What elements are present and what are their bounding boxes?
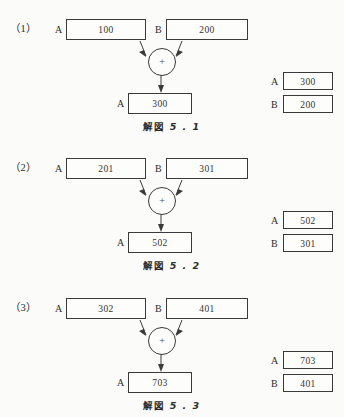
problem-block: （2） A 201 B 301 + A 502 A 502 B 301 解図 5… — [0, 139, 344, 278]
caption-figure-number: 5 . 2 — [170, 260, 201, 271]
caption-prefix: 解図 — [143, 260, 165, 271]
arrow-head-a-to-op — [139, 50, 146, 57]
plus-operator-icon: + — [148, 187, 176, 215]
memory-b-box: 200 — [283, 95, 333, 113]
figure-caption: 解図 5 . 2 — [0, 258, 344, 272]
operand-b-box: 200 — [166, 19, 248, 40]
memory-a-label: A — [271, 76, 278, 88]
figure-caption: 解図 5 . 3 — [0, 398, 344, 412]
memory-b-label: B — [271, 99, 278, 111]
operand-a-label: A — [55, 303, 62, 315]
plus-operator-icon: + — [148, 48, 176, 76]
arrow-head-op-to-result — [158, 224, 164, 232]
result-a-label: A — [117, 377, 124, 389]
operand-b-label: B — [155, 24, 162, 36]
operand-b-box: 301 — [166, 158, 248, 179]
caption-prefix: 解図 — [143, 121, 165, 132]
memory-b-label: B — [271, 378, 278, 390]
problem-block: （3） A 302 B 401 + A 703 A 703 B 401 解図 5… — [0, 279, 344, 417]
problem-block: （1） A 100 B 200 + A 300 A 300 B 200 解図 5… — [0, 0, 344, 139]
plus-operator-icon: + — [148, 327, 176, 355]
arrow-line-b-to-op — [176, 180, 182, 195]
arrow-head-b-to-op — [176, 329, 183, 336]
arrow-line-a-to-op — [140, 41, 146, 56]
memory-a-box: 703 — [283, 351, 333, 369]
memory-b-label: B — [271, 238, 278, 250]
figure-page: （1） A 100 B 200 + A 300 A 300 B 200 解図 5… — [0, 0, 344, 417]
result-box: 703 — [128, 372, 192, 393]
operand-b-box: 401 — [166, 298, 248, 319]
operand-b-label: B — [155, 303, 162, 315]
result-box: 502 — [128, 232, 192, 253]
arrow-head-op-to-result — [158, 364, 164, 372]
item-number: （2） — [10, 159, 37, 174]
caption-figure-number: 5 . 3 — [170, 400, 201, 411]
result-a-label: A — [117, 98, 124, 110]
result-box: 300 — [128, 93, 192, 114]
result-a-label: A — [117, 237, 124, 249]
operand-a-box: 100 — [66, 19, 146, 40]
arrow-head-b-to-op — [176, 50, 183, 57]
memory-a-label: A — [271, 215, 278, 227]
arrow-line-b-to-op — [176, 41, 182, 56]
arrow-line-a-to-op — [140, 180, 146, 195]
figure-caption: 解図 5 . 1 — [0, 119, 344, 133]
arrow-line-b-to-op — [176, 320, 182, 335]
arrow-line-a-to-op — [140, 320, 146, 335]
arrow-head-a-to-op — [139, 189, 146, 196]
operand-b-label: B — [155, 163, 162, 175]
caption-figure-number: 5 . 1 — [170, 121, 201, 132]
memory-a-label: A — [271, 355, 278, 367]
memory-b-box: 401 — [283, 374, 333, 392]
memory-b-box: 301 — [283, 234, 333, 252]
item-number: （3） — [10, 299, 37, 314]
caption-prefix: 解図 — [143, 400, 165, 411]
memory-a-box: 502 — [283, 211, 333, 229]
arrow-head-a-to-op — [139, 329, 146, 336]
item-number: （1） — [10, 20, 37, 35]
arrow-head-b-to-op — [176, 189, 183, 196]
operand-a-label: A — [55, 163, 62, 175]
operand-a-label: A — [55, 24, 62, 36]
arrow-head-op-to-result — [158, 85, 164, 93]
operand-a-box: 302 — [66, 298, 146, 319]
memory-a-box: 300 — [283, 72, 333, 90]
operand-a-box: 201 — [66, 158, 146, 179]
